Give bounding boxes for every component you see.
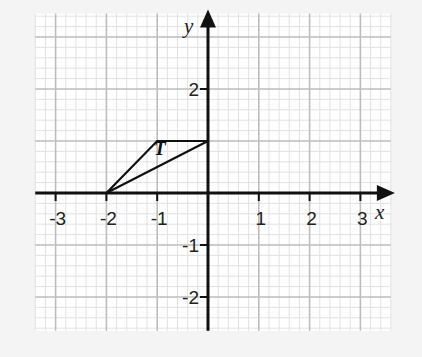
labels: T [154, 138, 167, 159]
x-axis-label: x [374, 200, 385, 224]
shape-label-T: T [154, 138, 167, 159]
x-tick-label: -1 [151, 208, 168, 229]
x-tick-label: -3 [49, 208, 66, 229]
coordinate-plane: -3-2-1123x 2-1-2y T [0, 0, 422, 357]
y-tick-label: -2 [182, 287, 199, 308]
x-tick-label: 3 [357, 208, 368, 229]
x-tick-label: -2 [100, 208, 117, 229]
y-tick-label: -1 [182, 235, 199, 256]
y-tick-label: 2 [188, 79, 199, 100]
y-axis-label: y [182, 14, 194, 38]
x-tick-label: 1 [256, 208, 267, 229]
x-tick-label: 2 [306, 208, 317, 229]
